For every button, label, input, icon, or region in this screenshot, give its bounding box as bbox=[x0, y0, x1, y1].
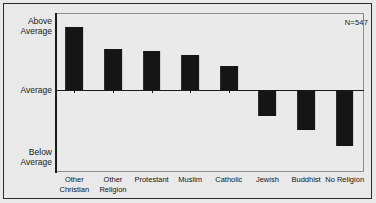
y-tick-label-above-average: Above Average bbox=[0, 16, 52, 36]
chart-screenshot: Above Average Average Below Average Othe… bbox=[0, 0, 376, 203]
bar bbox=[220, 66, 238, 90]
y-tick-label-average: Average bbox=[0, 85, 52, 95]
bar bbox=[259, 90, 277, 116]
bar bbox=[336, 90, 354, 146]
bar-chart: Above Average Average Below Average Othe… bbox=[0, 0, 376, 203]
bar bbox=[65, 27, 83, 90]
sample-size-annotation: N=547 bbox=[345, 18, 368, 27]
bar bbox=[143, 51, 161, 90]
x-axis-tick bbox=[152, 90, 153, 93]
x-axis-labels: Other ChristianOther ReligionProtestantM… bbox=[55, 175, 364, 201]
x-axis-tick bbox=[267, 90, 268, 93]
x-axis-tick bbox=[229, 90, 230, 93]
x-axis-tick bbox=[306, 90, 307, 93]
x-axis-category-label: No Religion bbox=[317, 175, 373, 185]
y-axis-labels: Above Average Average Below Average bbox=[0, 0, 52, 203]
bar-series bbox=[55, 13, 364, 172]
bar bbox=[181, 55, 199, 90]
bar bbox=[104, 49, 122, 90]
x-axis-tick bbox=[74, 90, 75, 93]
x-axis-tick bbox=[190, 90, 191, 93]
bar bbox=[297, 90, 315, 129]
x-axis-tick bbox=[345, 90, 346, 93]
x-axis-tick bbox=[113, 90, 114, 93]
y-tick-label-below-average: Below Average bbox=[0, 147, 52, 167]
